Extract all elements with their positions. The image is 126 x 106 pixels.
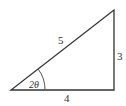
triangle-diagram: 5 3 4 2θ xyxy=(0,0,126,106)
right-triangle xyxy=(11,10,114,90)
vertical-side-label: 3 xyxy=(117,50,123,62)
base-label: 4 xyxy=(64,92,70,104)
hypotenuse-label: 5 xyxy=(58,34,64,46)
angle-arc xyxy=(38,69,45,90)
angle-label: 2θ xyxy=(29,79,39,90)
